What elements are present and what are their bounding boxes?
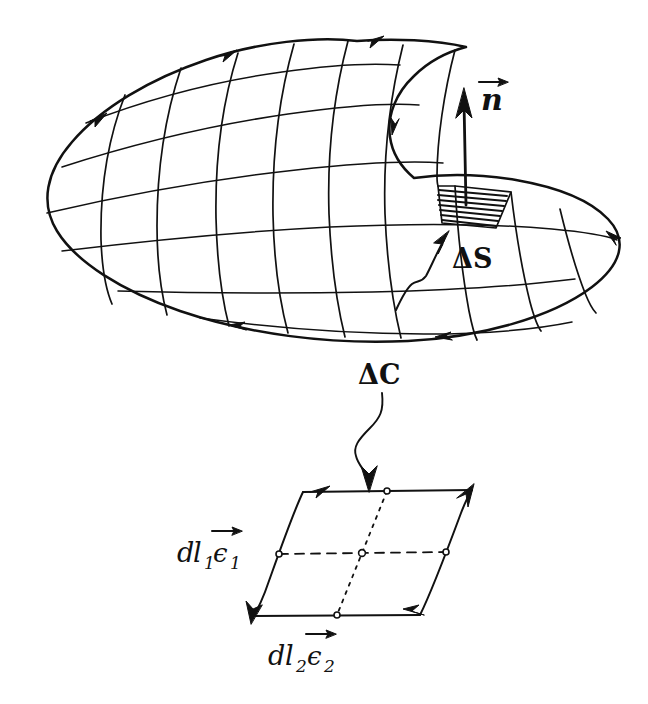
parallelogram-midpoint-marker-top <box>384 488 390 494</box>
parallelogram-midpoint-marker-right <box>443 549 449 555</box>
edge2-subscript: 2 <box>295 656 307 676</box>
parallelogram-center-marker <box>359 550 366 557</box>
edge2-l-label: l <box>285 640 294 671</box>
stokes-theorem-diagram: n ΔS ΔC d l <box>0 0 648 704</box>
edge2-basis-subscript: 2 <box>323 656 335 676</box>
parallelogram-midpoint-marker-left <box>276 551 282 557</box>
edge1-basis-subscript: 1 <box>230 553 241 573</box>
edge1-l-label: l <box>193 537 202 568</box>
normal-vector-shaft <box>464 102 466 205</box>
edge2-d-label: d <box>268 640 285 671</box>
surface-element-label: ΔS <box>452 243 492 274</box>
boundary-element-label: ΔC <box>358 359 400 390</box>
normal-vector-label-text: n <box>481 82 503 117</box>
figure-root: n ΔS ΔC d l <box>0 0 648 704</box>
parallelogram-midpoint-marker-bottom <box>334 612 340 618</box>
canvas-background <box>0 0 648 704</box>
edge1-basis-label: ϵ <box>213 538 228 568</box>
edge1-d-label: d <box>177 537 194 568</box>
edge2-basis-label: ϵ <box>307 641 322 671</box>
